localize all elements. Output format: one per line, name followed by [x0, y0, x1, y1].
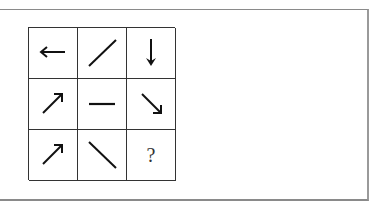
grid-cell-1-2: [78, 28, 127, 79]
grid-cell-2-3: [127, 79, 176, 130]
grid-cell-3-1: [29, 130, 78, 181]
arrow-up-right-icon: [29, 130, 77, 180]
question-mark: ?: [147, 144, 156, 167]
grid-cell-2-1: [29, 79, 78, 130]
grid-cell-3-3: ?: [127, 130, 176, 181]
diagonal-line-down-icon: [78, 130, 126, 180]
arrow-down-right-icon: [127, 79, 175, 129]
grid-cell-3-2: [78, 130, 127, 181]
diagonal-line-up-icon: [78, 28, 126, 78]
grid-cell-1-1: [29, 28, 78, 79]
puzzle-grid: ?: [28, 27, 175, 180]
arrow-up-right-icon: [29, 79, 77, 129]
arrow-down-icon: [127, 28, 175, 78]
arrow-left-icon: [29, 28, 77, 78]
grid-cell-1-3: [127, 28, 176, 79]
horizontal-line-icon: [78, 79, 126, 129]
grid-cell-2-2: [78, 79, 127, 130]
